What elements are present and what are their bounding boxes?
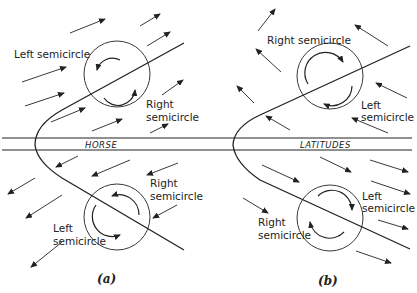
- label-b-lower-right-1: Right: [258, 216, 286, 228]
- label-a-upper-right-2: semicircle: [146, 111, 199, 123]
- label-b-upper-left-2: semicircle: [361, 111, 414, 123]
- label-b-upper-right-semicircle: Right semicircle: [267, 34, 351, 46]
- caption-a: (a): [97, 272, 116, 286]
- label-b-lower-left-1: Left: [362, 190, 382, 202]
- cyclone-circle-b-upper: [297, 43, 363, 109]
- label-b-lower-left-2: semicircle: [362, 202, 415, 214]
- horse-latitudes-band: HORSE LATITUDES: [2, 138, 412, 150]
- label-a-lower-right-2: semicircle: [150, 190, 203, 202]
- cyclone-circle-b-lower: [297, 185, 363, 251]
- label-a-lower-right-1: Right: [150, 177, 178, 189]
- storm-track-diagram: HORSE LATITUDES: [0, 0, 417, 293]
- label-b-lower-right-2: semicircle: [258, 229, 311, 241]
- label-a-upper-left-semicircle: Left semicircle: [14, 48, 90, 60]
- band-label-horse: HORSE: [85, 140, 117, 150]
- cyclone-circle-a-upper: [84, 41, 150, 107]
- caption-b: (b): [318, 274, 338, 288]
- label-a-upper-right-1: Right: [146, 98, 174, 110]
- band-label-latitudes: LATITUDES: [300, 140, 351, 150]
- label-a-lower-left-2: semicircle: [53, 235, 106, 247]
- label-a-lower-left-1: Left: [53, 222, 73, 234]
- label-b-upper-left-1: Left: [361, 99, 381, 111]
